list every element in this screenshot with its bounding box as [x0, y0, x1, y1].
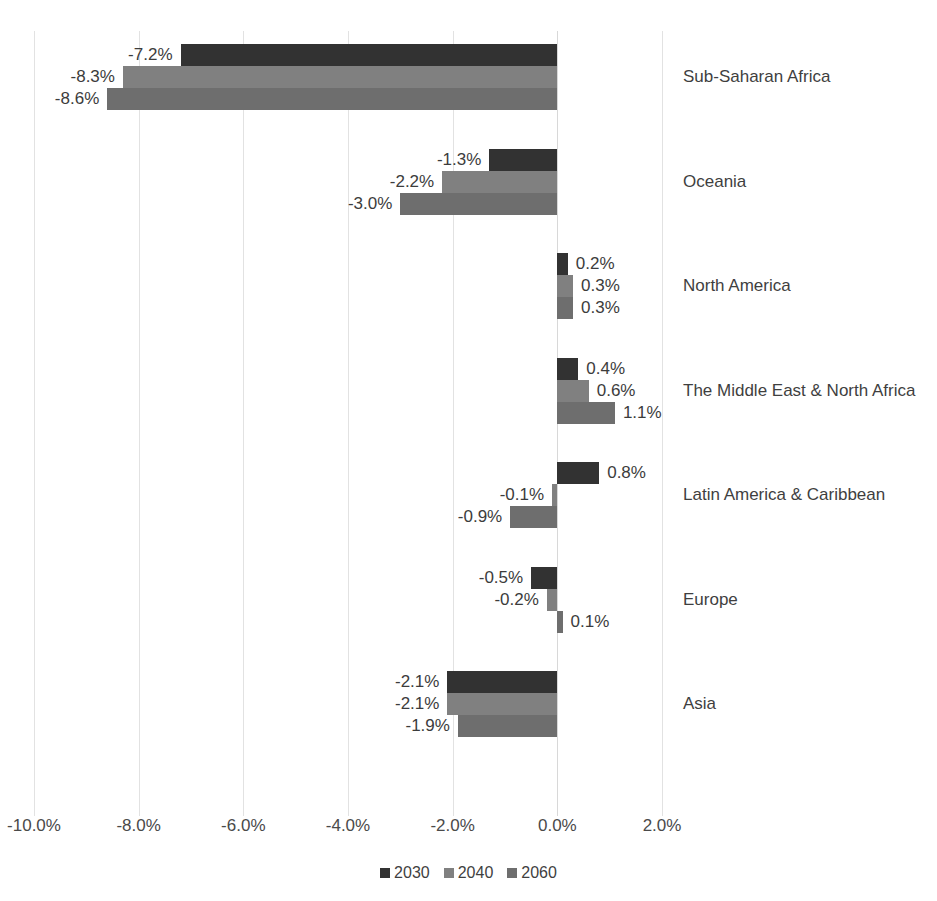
bar	[510, 506, 557, 528]
x-axis-tick-label: 0.0%	[497, 815, 617, 837]
legend-item[interactable]: 2040	[444, 864, 494, 882]
legend-swatch-icon	[507, 868, 517, 878]
bar-value-label: -8.6%	[0, 88, 99, 110]
bar	[458, 715, 557, 737]
bar-chart: -7.2%-8.3%-8.6%Sub-Saharan Africa-1.3%-2…	[0, 0, 937, 901]
bar	[557, 297, 573, 319]
bar-value-label: -8.3%	[13, 66, 115, 88]
bar-value-label: -0.9%	[400, 506, 502, 528]
bar	[107, 88, 557, 110]
bar	[181, 44, 558, 66]
bar-value-label: 0.2%	[576, 253, 678, 275]
bar-value-label: -7.2%	[71, 44, 173, 66]
bar-value-label: -1.3%	[379, 149, 481, 171]
category-label: Asia	[683, 694, 716, 714]
bar-value-label: -3.0%	[290, 193, 392, 215]
x-axis-tick-label: -4.0%	[288, 815, 408, 837]
bar	[442, 171, 557, 193]
bar-value-label: -0.5%	[421, 567, 523, 589]
bar	[557, 275, 573, 297]
bar-value-label: -2.1%	[337, 671, 439, 693]
x-axis-tick-label: -2.0%	[393, 815, 513, 837]
bar-value-label: -2.2%	[332, 171, 434, 193]
bar	[557, 380, 588, 402]
legend-swatch-icon	[380, 868, 390, 878]
bar-value-label: -2.1%	[337, 693, 439, 715]
bar	[557, 358, 578, 380]
bar	[557, 611, 562, 633]
category-label: Europe	[683, 590, 738, 610]
legend-swatch-icon	[444, 868, 454, 878]
bar	[123, 66, 557, 88]
bar	[531, 567, 557, 589]
category-label: North America	[683, 276, 791, 296]
legend-label: 2060	[521, 864, 557, 882]
bar	[557, 462, 599, 484]
bar	[447, 671, 557, 693]
legend-item[interactable]: 2030	[380, 864, 430, 882]
bar-value-label: 0.3%	[581, 275, 683, 297]
bar-value-label: -0.1%	[442, 484, 544, 506]
bar-value-label: 0.1%	[571, 611, 673, 633]
gridline	[243, 31, 244, 816]
bar	[557, 253, 567, 275]
category-label: Sub-Saharan Africa	[683, 67, 830, 87]
bar	[400, 193, 557, 215]
bar	[447, 693, 557, 715]
x-axis-tick-label: -6.0%	[183, 815, 303, 837]
legend-label: 2040	[458, 864, 494, 882]
gridline	[139, 31, 140, 816]
bar	[489, 149, 557, 171]
category-label: Oceania	[683, 172, 746, 192]
x-axis-tick-label: -8.0%	[79, 815, 199, 837]
bar-value-label: -1.9%	[348, 715, 450, 737]
legend-item[interactable]: 2060	[507, 864, 557, 882]
bar	[552, 484, 557, 506]
bar-value-label: 1.1%	[623, 402, 725, 424]
plot-area: -7.2%-8.3%-8.6%Sub-Saharan Africa-1.3%-2…	[0, 0, 937, 901]
category-label: The Middle East & North Africa	[683, 381, 915, 401]
bar	[557, 402, 615, 424]
bar-value-label: -0.2%	[437, 589, 539, 611]
gridline	[34, 31, 35, 816]
bar-value-label: 0.3%	[581, 297, 683, 319]
x-axis-tick-label: 2.0%	[602, 815, 722, 837]
bar-value-label: 0.4%	[586, 358, 688, 380]
gridline	[662, 31, 663, 816]
legend-label: 2030	[394, 864, 430, 882]
category-label: Latin America & Caribbean	[683, 485, 885, 505]
bar-value-label: 0.8%	[607, 462, 709, 484]
bar	[547, 589, 557, 611]
chart-legend: 203020402060	[0, 864, 937, 882]
